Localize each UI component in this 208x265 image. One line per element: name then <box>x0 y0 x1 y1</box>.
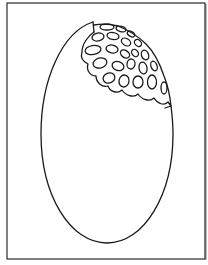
coloring-page-drawing <box>0 0 208 265</box>
petal <box>140 49 150 61</box>
petal <box>120 37 132 48</box>
petal <box>148 75 157 89</box>
oval-top-notch <box>93 22 94 32</box>
petal <box>133 76 143 88</box>
petal <box>106 32 119 41</box>
page-frame <box>7 3 205 259</box>
petal <box>102 71 117 85</box>
petal <box>91 32 104 42</box>
petal-cluster <box>81 24 171 106</box>
petal <box>130 48 140 58</box>
petal <box>161 82 167 94</box>
petal <box>126 30 135 38</box>
petal <box>111 60 125 73</box>
egg-oval-outline <box>41 22 173 243</box>
petal <box>118 74 130 88</box>
petal <box>119 48 131 59</box>
petal <box>126 58 136 69</box>
petal <box>92 56 108 69</box>
petal <box>84 44 101 56</box>
petal <box>138 61 148 74</box>
petal <box>149 60 158 71</box>
petal <box>105 44 118 54</box>
